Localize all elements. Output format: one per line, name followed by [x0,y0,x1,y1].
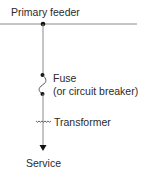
distribution-diagram: Primary feeder Fuse (or circuit breaker)… [0,0,147,189]
arrow-down-icon [40,145,47,151]
service-label: Service [26,157,61,169]
transformer-label: Transformer [54,116,111,128]
fuse-label-note: (or circuit breaker) [53,85,138,97]
fuse-icon [39,73,46,96]
primary-feeder-label: Primary feeder [11,6,80,18]
fuse-label: Fuse [53,72,76,84]
